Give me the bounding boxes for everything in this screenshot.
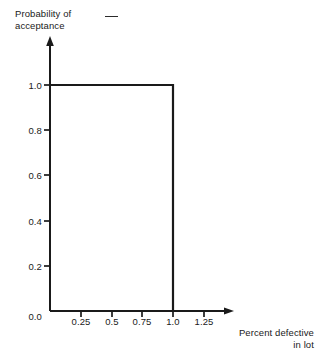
y-tick-label-0p8: 0.8 [14, 125, 42, 136]
x-tick-label-1p0: 1.0 [156, 316, 190, 327]
x-tick-label-0p5: 0.5 [95, 316, 129, 327]
x-tick-label-0p25: 0.25 [64, 316, 98, 327]
y-tick-label-0p2: 0.2 [14, 261, 42, 272]
plot-area [0, 0, 316, 364]
y-tick-label-0p6: 0.6 [14, 170, 42, 181]
chart-canvas: Probability of acceptance 1.0 0.8 [0, 0, 316, 364]
y-tick-label-1p0: 1.0 [14, 80, 42, 91]
x-axis-arrowhead [224, 307, 234, 314]
x-tick-label-1p25: 1.25 [187, 316, 221, 327]
oc-step-curve [50, 85, 173, 311]
y-tick-label-0p4: 0.4 [14, 216, 42, 227]
x-axis-title: Percent defective in lot [236, 327, 314, 350]
x-tick-label-0p75: 0.75 [125, 316, 159, 327]
y-axis-arrowhead [46, 36, 54, 46]
y-axis-group [46, 36, 54, 311]
y-tick-label-0p0: 0.0 [14, 311, 42, 322]
